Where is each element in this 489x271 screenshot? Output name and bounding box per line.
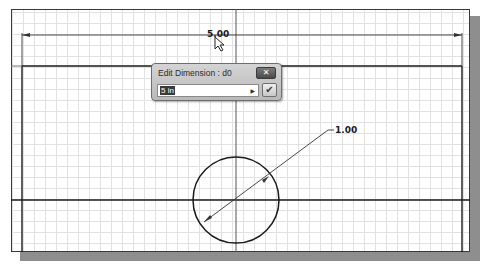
diameter-dimension-value[interactable]: 1.00 (335, 125, 357, 135)
dimension-arrow-right-icon (454, 33, 462, 37)
mouse-cursor-icon (214, 36, 226, 52)
accept-button[interactable]: ✔ (262, 83, 277, 97)
dimension-input[interactable]: 5 in ▶ (157, 84, 259, 97)
dimension-arrow-left-icon (22, 33, 30, 37)
dialog-title: Edit Dimension : d0 (158, 68, 232, 78)
close-button[interactable]: ✕ (256, 67, 276, 79)
checkmark-icon: ✔ (265, 84, 273, 95)
sketch-geometry[interactable] (0, 0, 489, 271)
close-icon: ✕ (263, 68, 270, 77)
diameter-leader (204, 130, 328, 222)
triangle-right-icon[interactable]: ▶ (250, 87, 255, 94)
edit-dimension-dialog: Edit Dimension : d0 ✕ 5 in ▶ ✔ (151, 63, 282, 101)
dimension-input-value[interactable]: 5 in (160, 86, 175, 95)
